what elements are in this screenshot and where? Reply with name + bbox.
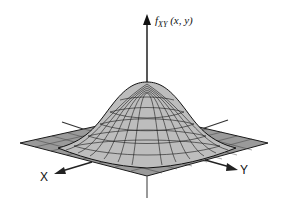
y-axis <box>205 160 230 167</box>
x-axis-label: X <box>40 170 48 184</box>
z-axis-label: fXY (x, y) <box>155 14 193 29</box>
x-axis <box>62 162 92 171</box>
y-axis-arrowhead <box>226 163 238 171</box>
y-axis-label: Y <box>240 163 248 177</box>
x-axis-arrowhead <box>54 167 66 174</box>
z-axis-arrowhead <box>143 14 151 25</box>
